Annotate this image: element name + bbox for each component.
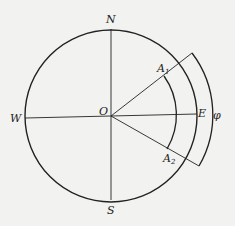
label-south: S xyxy=(107,204,115,217)
label-east: E xyxy=(197,107,206,120)
label-phi: φ xyxy=(213,109,221,122)
label-north: N xyxy=(105,13,116,26)
inner-angle-arc xyxy=(164,76,176,149)
label-a1: A1 xyxy=(156,62,169,76)
ray-oa2 xyxy=(111,116,199,166)
label-west: W xyxy=(10,112,23,125)
diagram-canvas: N S W E O φ A1 A2 xyxy=(0,0,235,226)
ray-oa1 xyxy=(111,53,192,116)
label-a2: A2 xyxy=(162,152,176,166)
compass-diagram: N S W E O φ A1 A2 xyxy=(0,0,235,226)
label-origin: O xyxy=(99,105,108,118)
